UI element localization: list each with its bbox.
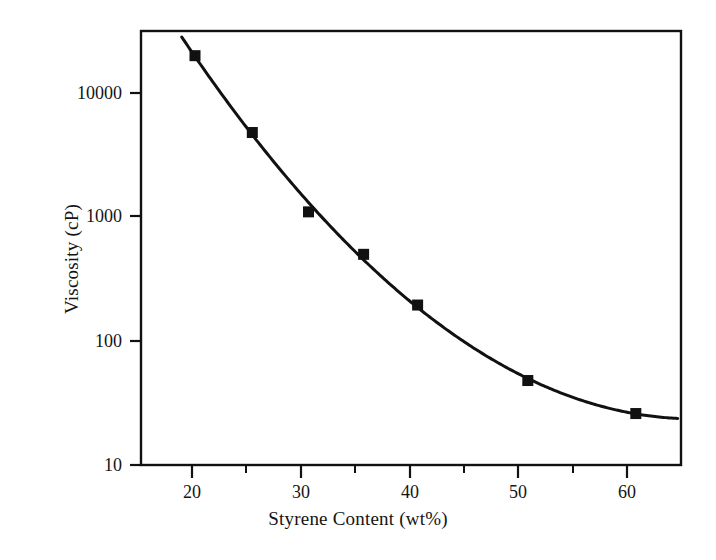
data-point-marker bbox=[190, 50, 201, 61]
x-tick-label-30: 30 bbox=[292, 482, 310, 503]
trend-line bbox=[182, 37, 678, 418]
y-axis-title: Viscosity (cP) bbox=[61, 129, 83, 389]
data-point-marker bbox=[522, 375, 533, 386]
viscosity-vs-styrene-content-chart: 10000 1000 100 10 20 30 40 50 60 Styrene… bbox=[0, 0, 716, 560]
data-point-markers bbox=[190, 50, 642, 419]
x-tick-label-60: 60 bbox=[618, 482, 636, 503]
data-point-marker bbox=[247, 127, 258, 138]
x-axis-major-ticks bbox=[192, 465, 627, 478]
x-tick-label-50: 50 bbox=[509, 482, 527, 503]
data-point-marker bbox=[303, 206, 314, 217]
x-axis-title: Styrene Content (wt%) bbox=[0, 508, 716, 530]
y-tick-label-10: 10 bbox=[34, 455, 122, 476]
y-axis-ticks bbox=[130, 93, 141, 465]
y-tick-label-10000: 10000 bbox=[34, 83, 122, 104]
x-tick-label-40: 40 bbox=[401, 482, 419, 503]
data-point-marker bbox=[412, 300, 423, 311]
data-point-marker bbox=[630, 408, 641, 419]
data-point-marker bbox=[358, 249, 369, 260]
x-tick-label-20: 20 bbox=[183, 482, 201, 503]
